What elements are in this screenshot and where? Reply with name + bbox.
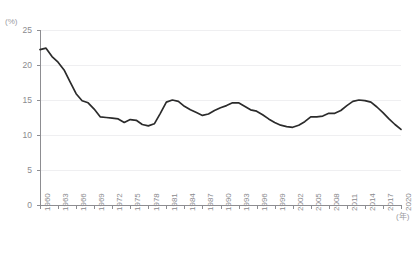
x-tick-label: 2011 (350, 194, 359, 211)
x-tick-label: 1978 (152, 193, 161, 211)
x-tick-mark (184, 206, 185, 209)
x-tick-label: 1996 (260, 193, 269, 211)
x-tick-mark (329, 206, 330, 209)
y-tick-mark (37, 30, 40, 31)
y-tick-label: 25 (4, 26, 32, 34)
chart-figure: (%) (年) 25201510501960196319661969197219… (0, 0, 412, 255)
y-tick-mark (37, 135, 40, 136)
x-tick-mark (365, 206, 366, 209)
x-tick-mark (112, 206, 113, 209)
x-tick-mark (257, 206, 258, 209)
x-tick-label: 2014 (368, 193, 377, 211)
y-tick-label: 20 (4, 61, 32, 69)
y-tick-mark (37, 65, 40, 66)
x-tick-label: 1975 (133, 193, 142, 211)
y-tick-mark (37, 170, 40, 171)
x-tick-label: 2020 (404, 193, 412, 211)
x-tick-mark (166, 206, 167, 209)
x-tick-label: 2017 (386, 193, 395, 211)
x-tick-label: 1972 (115, 193, 124, 211)
x-tick-mark (130, 206, 131, 209)
x-tick-label: 1990 (224, 193, 233, 211)
x-tick-mark (202, 206, 203, 209)
x-tick-label: 1966 (79, 193, 88, 211)
x-tick-label: 2005 (314, 193, 323, 211)
y-tick-label: 0 (4, 201, 32, 209)
y-tick-label: 5 (4, 166, 32, 174)
x-tick-label: 1963 (61, 193, 70, 211)
x-tick-label: 1999 (278, 193, 287, 211)
x-tick-label: 2002 (296, 193, 305, 211)
x-tick-mark (148, 206, 149, 209)
x-tick-mark (383, 206, 384, 209)
x-tick-mark (58, 206, 59, 209)
x-tick-label: 1993 (242, 193, 251, 211)
x-tick-mark (275, 206, 276, 209)
x-tick-mark (94, 206, 95, 209)
series-line-path (40, 48, 401, 129)
y-tick-label: 10 (4, 131, 32, 139)
x-tick-label: 1960 (43, 193, 52, 211)
x-tick-label: 1984 (188, 193, 197, 211)
x-tick-label: 1987 (206, 193, 215, 211)
x-tick-label: 1981 (170, 193, 179, 211)
x-tick-label: 2008 (332, 193, 341, 211)
y-tick-mark (37, 100, 40, 101)
x-tick-label: 1969 (97, 193, 106, 211)
x-tick-mark (293, 206, 294, 209)
series-line-layer (0, 0, 412, 255)
y-tick-label: 15 (4, 96, 32, 104)
x-tick-mark (239, 206, 240, 209)
x-tick-mark (347, 206, 348, 209)
x-tick-mark (221, 206, 222, 209)
x-tick-mark (40, 206, 41, 209)
x-tick-mark (311, 206, 312, 209)
x-tick-mark (401, 206, 402, 209)
x-tick-mark (76, 206, 77, 209)
